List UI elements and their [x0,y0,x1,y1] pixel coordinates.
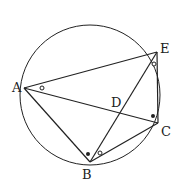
point-label-D: D [111,96,121,109]
angle-mark-E-open [152,62,156,66]
geometry-diagram: A E C B D [0,0,180,191]
point-label-A: A [12,81,21,94]
point-label-B: B [82,168,92,181]
diagram-canvas [0,0,180,191]
point-label-C: C [161,125,171,138]
angle-mark-C-dot [151,114,155,118]
point-label-E: E [160,42,170,55]
angle-mark-B-open [98,151,102,155]
segment-AB [24,88,90,162]
angle-mark-A-open [40,86,44,90]
circumcircle [20,25,160,165]
segment-AC [24,88,158,123]
segment-AE [24,52,157,88]
segment-EC [157,52,158,123]
segment-BE [90,52,157,162]
angle-mark-B-dot [86,152,90,156]
